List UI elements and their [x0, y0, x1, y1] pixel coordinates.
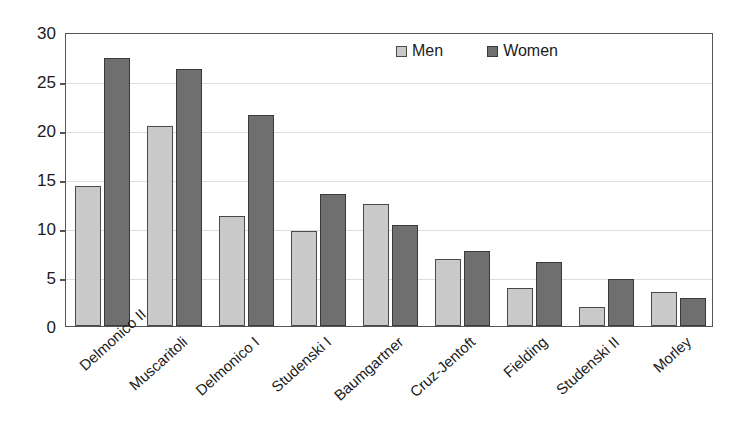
bar [147, 126, 173, 326]
bars-layer [66, 34, 712, 326]
bar [104, 58, 130, 326]
bar [464, 251, 490, 326]
bar [248, 115, 274, 326]
bar [680, 298, 706, 326]
y-tick-label: 10 [12, 221, 56, 238]
legend-entry: Women [487, 42, 558, 60]
bar [219, 216, 245, 326]
legend-swatch-women [487, 46, 498, 57]
bar [291, 231, 317, 326]
bar [435, 259, 461, 326]
bar [75, 186, 101, 326]
legend-swatch-men [396, 46, 407, 57]
bar [651, 292, 677, 326]
plot-area: MenWomen [65, 33, 713, 327]
x-axis: Delmonico IIMuscaritoliDelmonico IStuden… [65, 327, 713, 436]
bar [392, 225, 418, 326]
bar [579, 307, 605, 326]
bar [320, 194, 346, 326]
legend-entry: Men [396, 42, 443, 60]
y-tick-label: 15 [12, 172, 56, 189]
y-tick-label: 20 [12, 123, 56, 140]
y-tick-label: 30 [12, 25, 56, 42]
legend-label: Men [412, 42, 443, 60]
y-axis: 051015202530 [8, 0, 56, 436]
bar-chart: 051015202530 MenWomen Delmonico IIMuscar… [0, 0, 732, 436]
bar [363, 204, 389, 326]
bar [608, 279, 634, 326]
y-tick-label: 5 [12, 270, 56, 287]
bar [507, 288, 533, 326]
legend-label: Women [503, 42, 558, 60]
legend: MenWomen [396, 42, 558, 60]
x-tick-label: Delmonico II [76, 333, 119, 374]
y-tick-label: 25 [12, 74, 56, 91]
bar [536, 262, 562, 326]
bar [176, 69, 202, 326]
y-tick-label: 0 [12, 319, 56, 336]
